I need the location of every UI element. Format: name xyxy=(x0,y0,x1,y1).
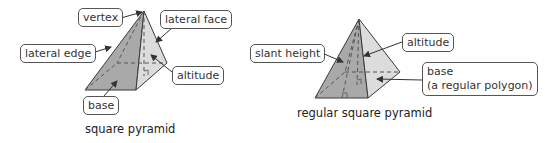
regular-square-pyramid-figure xyxy=(315,19,422,98)
caption-regular-square-pyramid: regular square pyramid xyxy=(297,106,432,120)
lateral-face-arrow xyxy=(156,28,172,42)
label-altitude: altitude xyxy=(172,66,224,85)
label-base-line1: base xyxy=(427,65,533,79)
label-lateral-face: lateral face xyxy=(160,10,232,29)
label-base-line2: (a regular polygon) xyxy=(427,79,533,93)
label-base-regular-polygon: base (a regular polygon) xyxy=(422,62,538,96)
label-vertex: vertex xyxy=(78,8,123,27)
label-altitude: altitude xyxy=(402,33,454,52)
caption-square-pyramid: square pyramid xyxy=(85,122,175,136)
label-base: base xyxy=(83,96,119,115)
label-slant-height: slant height xyxy=(250,44,325,63)
label-lateral-edge: lateral edge xyxy=(20,44,96,63)
